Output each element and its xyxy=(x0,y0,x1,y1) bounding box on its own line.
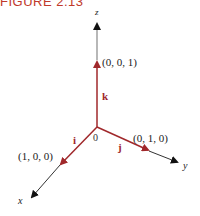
point-label-i: (1, 0, 0) xyxy=(18,150,53,163)
y-axis xyxy=(149,151,177,162)
coordinate-diagram: z y x (0, 0, 1) (0, 1, 0) (1, 0, 0) k i … xyxy=(0,0,200,216)
z-axis-label: z xyxy=(94,7,99,17)
vector-i xyxy=(61,127,97,164)
point-label-j: (0, 1, 0) xyxy=(133,132,168,145)
point-label-k: (0, 0, 1) xyxy=(102,56,137,69)
origin-label: 0 xyxy=(93,132,98,143)
vector-label-j: j xyxy=(117,141,122,153)
x-axis-label: x xyxy=(17,195,23,206)
y-axis-label: y xyxy=(182,160,188,171)
x-axis xyxy=(32,165,60,197)
vector-label-k: k xyxy=(102,90,109,102)
vector-label-i: i xyxy=(73,134,76,146)
